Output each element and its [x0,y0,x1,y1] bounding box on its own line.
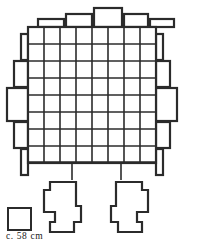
protrusion-left-3 [14,122,28,148]
protrusion-top-1 [66,14,92,27]
protrusion-top-3 [124,14,148,27]
protrusion-top-0 [38,19,64,27]
protrusion-left-2 [7,88,28,121]
protrusion-right-1 [156,61,170,87]
slab-grid-group [28,27,156,180]
protrusion-top-4 [150,19,174,27]
protrusion-left-1 [14,61,28,87]
plan-drawing-canvas [0,0,205,250]
scale-reference-label: c. 58 cm [6,232,43,242]
scale-reference-group [8,208,31,230]
protrusion-top-2 [94,8,122,27]
scale-reference-square [8,208,31,230]
protrusion-right-3 [156,122,170,148]
archaeological-plan-figure: c. 58 cm [0,0,205,250]
protrusion-right-2 [156,88,177,121]
